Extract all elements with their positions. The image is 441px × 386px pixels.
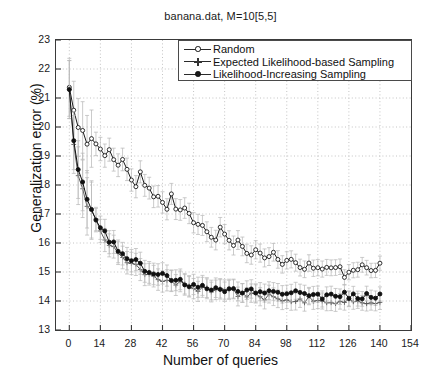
data-point bbox=[360, 263, 364, 267]
data-point bbox=[156, 194, 160, 198]
data-point bbox=[325, 265, 329, 269]
data-point bbox=[98, 226, 102, 230]
data-point bbox=[293, 299, 298, 304]
legend-item-likelihood-increasing[interactable]: Likelihood-Increasing Sampling bbox=[183, 68, 411, 81]
x-tick-label: 70 bbox=[209, 337, 239, 349]
figure: banana.dat, M=10[5,5] Generalization err… bbox=[0, 0, 441, 386]
data-point bbox=[360, 297, 364, 301]
data-point bbox=[143, 183, 147, 187]
data-point bbox=[103, 154, 107, 158]
data-point bbox=[334, 266, 338, 270]
data-point bbox=[169, 278, 173, 282]
data-point bbox=[342, 275, 346, 279]
data-point bbox=[196, 285, 200, 289]
data-point bbox=[209, 288, 213, 292]
data-point bbox=[112, 158, 116, 162]
data-point bbox=[192, 221, 196, 225]
data-point bbox=[205, 230, 209, 234]
data-point bbox=[271, 250, 275, 254]
data-point bbox=[200, 223, 204, 227]
chart-canvas bbox=[56, 40, 411, 330]
data-point bbox=[365, 292, 369, 296]
data-point bbox=[196, 222, 200, 226]
data-point bbox=[232, 244, 236, 248]
data-point bbox=[134, 258, 138, 262]
data-point bbox=[138, 261, 142, 265]
data-point bbox=[200, 283, 204, 287]
data-point bbox=[365, 266, 369, 270]
x-tick-label: 14 bbox=[84, 337, 114, 349]
data-point bbox=[147, 186, 151, 190]
data-point bbox=[347, 296, 351, 300]
data-point bbox=[294, 289, 298, 293]
data-point bbox=[178, 208, 182, 212]
data-point bbox=[174, 278, 178, 282]
data-point bbox=[254, 248, 258, 252]
data-point bbox=[369, 269, 373, 273]
data-point bbox=[116, 163, 120, 167]
data-point bbox=[94, 142, 98, 146]
data-point bbox=[285, 292, 289, 296]
data-point bbox=[223, 290, 227, 294]
data-point bbox=[249, 287, 253, 291]
x-tick-label: 28 bbox=[115, 337, 145, 349]
chart-legend: Random Expected Likelihood-based Samplin… bbox=[178, 40, 412, 81]
data-point bbox=[374, 296, 378, 300]
data-point bbox=[67, 88, 71, 92]
data-point bbox=[125, 167, 129, 171]
data-point bbox=[316, 266, 320, 270]
legend-label: Likelihood-Increasing Sampling bbox=[213, 68, 366, 81]
data-point bbox=[209, 235, 213, 239]
data-point bbox=[316, 292, 320, 296]
legend-item-expected-likelihood[interactable]: Expected Likelihood-based Sampling bbox=[183, 56, 411, 69]
legend-marker-plus-icon bbox=[183, 56, 213, 68]
data-point bbox=[374, 268, 378, 272]
data-point bbox=[325, 293, 329, 297]
data-point bbox=[276, 257, 280, 261]
legend-item-random[interactable]: Random bbox=[183, 43, 411, 56]
data-point bbox=[378, 292, 382, 296]
data-point bbox=[263, 291, 267, 295]
data-point bbox=[90, 137, 94, 141]
legend-marker-filled-circle-icon bbox=[183, 68, 213, 80]
data-point bbox=[298, 266, 302, 270]
data-point bbox=[112, 240, 116, 244]
data-point bbox=[192, 282, 196, 286]
x-tick-label: 126 bbox=[333, 337, 363, 349]
data-point bbox=[129, 259, 133, 263]
data-point bbox=[183, 283, 187, 287]
data-point bbox=[81, 180, 85, 184]
data-point bbox=[351, 292, 355, 296]
data-point bbox=[134, 185, 138, 189]
data-point bbox=[227, 238, 231, 242]
legend-marker-open-circle-icon bbox=[183, 43, 213, 55]
data-point bbox=[227, 287, 231, 291]
data-point bbox=[267, 255, 271, 259]
data-point bbox=[263, 256, 267, 260]
data-point bbox=[174, 207, 178, 211]
data-point bbox=[329, 292, 333, 296]
data-point bbox=[276, 290, 280, 294]
data-point bbox=[329, 266, 333, 270]
data-point bbox=[245, 288, 249, 292]
data-point bbox=[320, 267, 324, 271]
legend-label: Expected Likelihood-based Sampling bbox=[213, 56, 394, 69]
data-point bbox=[94, 218, 98, 222]
data-point bbox=[125, 257, 129, 261]
data-point bbox=[183, 206, 187, 210]
data-point bbox=[289, 257, 293, 261]
data-point bbox=[187, 211, 191, 215]
data-point bbox=[258, 251, 262, 255]
data-point bbox=[165, 274, 169, 278]
data-point bbox=[81, 128, 85, 132]
data-point bbox=[311, 266, 315, 270]
data-point bbox=[338, 265, 342, 269]
data-point bbox=[258, 290, 262, 294]
data-point bbox=[143, 269, 147, 273]
data-point bbox=[320, 297, 324, 301]
data-point bbox=[76, 168, 80, 172]
data-point bbox=[214, 286, 218, 290]
x-tick-label: 98 bbox=[271, 337, 301, 349]
data-point bbox=[245, 251, 249, 255]
data-point bbox=[72, 139, 76, 143]
